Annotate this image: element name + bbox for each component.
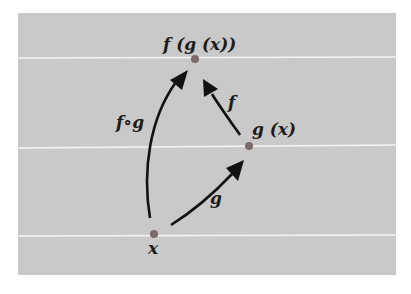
arrowhead-f — [203, 79, 218, 97]
guide-line-bottom — [18, 235, 396, 236]
label-g: g — [210, 190, 222, 207]
guide-line-middle — [18, 145, 396, 148]
point-g-of-x — [245, 142, 253, 150]
arrow-f-compose-g — [147, 82, 176, 218]
label-f-of-g-of-x: f (g (x)) — [163, 36, 236, 53]
label-x: x — [148, 240, 158, 257]
label-g-of-x: g (x) — [252, 121, 296, 138]
label-f: f — [228, 94, 235, 111]
point-x — [150, 230, 158, 238]
label-f-compose-g: f∘g — [116, 114, 144, 131]
arrow-f — [212, 94, 240, 135]
guide-line-top — [18, 57, 396, 58]
point-f-of-g-of-x — [191, 55, 199, 63]
arrow-g — [171, 174, 232, 225]
